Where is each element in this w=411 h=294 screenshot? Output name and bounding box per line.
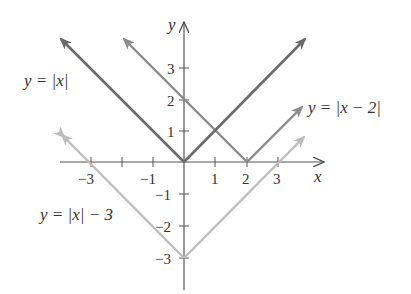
y-axis-label: y [166,15,176,34]
x-axis-label: x [313,167,322,186]
series-abs-right [184,39,305,162]
series-abs-shift-right [247,107,302,162]
y-tick-label: −1 [155,187,171,203]
series-abs-minus-3-right [184,137,304,258]
x-tick-label: −3 [78,171,94,187]
label-abs: y = |x| [22,71,68,90]
series-abs-shift-left [124,39,247,162]
x-tick-label: 2 [242,171,250,187]
label-abs-minus-3: y = |x| − 3 [38,205,113,224]
absolute-value-graph: y x −3 −1 1 2 3 3 2 1 −1 −2 −3 y = |x| y… [0,0,411,294]
y-tick-label: −2 [155,219,171,235]
y-tick-label: −3 [155,251,171,267]
y-tick-label: 3 [167,61,175,77]
arrow-left-light [62,135,64,137]
label-abs-shift: y = |x − 2| [306,98,381,117]
y-tick-label: 2 [167,93,175,109]
x-tick-label: −1 [140,171,156,187]
x-tick-label: 3 [273,171,281,187]
series-abs-left [61,39,184,162]
x-tick-label: 1 [211,171,219,187]
y-tick-label: 1 [167,124,175,140]
